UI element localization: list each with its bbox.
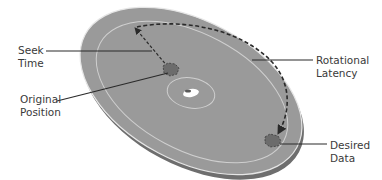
seek-time-label-line1: Seek (18, 44, 44, 57)
rotational-latency-label-line1: Rotational (316, 54, 369, 67)
rotational-latency-label: Rotational Latency (316, 54, 369, 79)
platter-illustration (0, 0, 382, 180)
desired-data-label: Desired Data (330, 139, 370, 164)
desired-data-label-line2: Data (330, 152, 370, 165)
seek-time-label: Seek Time (18, 44, 44, 69)
rotational-latency-label-line2: Latency (316, 67, 369, 80)
original-position-label-line1: Original (20, 93, 61, 106)
original-position-label-line2: Position (20, 106, 61, 119)
seek-time-label-line2: Time (18, 57, 44, 70)
desired-data-label-line1: Desired (330, 139, 370, 152)
disk-diagram: Seek Time Original Position Rotational L… (0, 0, 382, 180)
original-position-label: Original Position (20, 93, 61, 118)
